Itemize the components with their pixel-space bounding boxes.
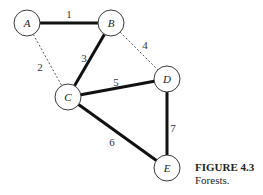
node-label: D — [162, 73, 171, 85]
node-label: E — [163, 162, 171, 174]
node-e: E — [154, 155, 180, 181]
figure-subtitle: Forests. — [195, 174, 230, 186]
edge-b-d — [120, 32, 158, 70]
node-label: C — [64, 91, 72, 103]
edge-weight-label: 6 — [109, 136, 115, 148]
edge-weight-label: 5 — [113, 76, 119, 88]
node-label: A — [23, 17, 31, 29]
node-b: B — [98, 10, 124, 36]
edge-a-c — [33, 34, 61, 85]
node-a: A — [14, 10, 40, 36]
edge-c-e — [79, 105, 157, 161]
nodes-layer: ABCDE — [14, 10, 180, 181]
edge-b-c — [75, 34, 105, 86]
edge-weight-label: 1 — [66, 8, 72, 20]
figure-title: FIGURE 4.3 — [195, 161, 254, 173]
edge-weight-label: 2 — [37, 61, 43, 73]
edge-weight-label: 3 — [81, 52, 87, 64]
node-label: B — [108, 17, 115, 29]
edge-weight-label: 7 — [170, 122, 176, 134]
edge-weight-label: 4 — [142, 39, 148, 51]
node-c: C — [55, 84, 81, 110]
node-d: D — [154, 66, 180, 92]
